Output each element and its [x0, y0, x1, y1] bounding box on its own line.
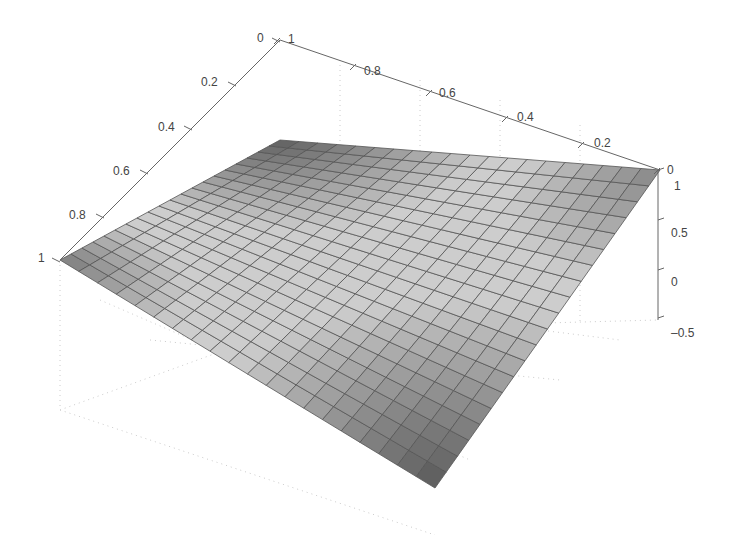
tick-mark — [140, 170, 148, 174]
y-tick-label: 0 — [667, 163, 674, 177]
x-tick-label: 1 — [38, 251, 45, 265]
x-tick-label: 0.8 — [69, 208, 86, 222]
z-tick-label: 0 — [671, 275, 678, 289]
x-tick-label: 0.6 — [113, 164, 130, 178]
z-tick-label: –0.5 — [671, 326, 695, 340]
z-tick-label: 1 — [674, 179, 681, 193]
x-tick-label: 0.4 — [158, 120, 175, 134]
tick-mark — [658, 316, 664, 318]
surface-plot: 00.20.40.60.8110.80.60.40.2010.50–0.5 — [0, 0, 734, 535]
y-tick-label: 0.4 — [517, 110, 534, 124]
y-tick-label: 0.8 — [364, 64, 381, 78]
x-tick-label: 0 — [257, 31, 264, 45]
x-tick-label: 0.2 — [201, 75, 218, 89]
tick-mark — [658, 268, 664, 270]
y-tick-label: 0.6 — [439, 86, 456, 100]
surface-mesh — [60, 140, 660, 488]
tick-mark — [228, 82, 236, 86]
y-tick-label: 0.2 — [594, 136, 611, 150]
tick-mark — [52, 258, 60, 262]
z-tick-label: 0.5 — [671, 226, 688, 240]
tick-mark — [96, 214, 104, 218]
y-tick-label: 1 — [288, 32, 295, 46]
tick-mark — [184, 126, 192, 130]
tick-mark — [658, 218, 664, 220]
